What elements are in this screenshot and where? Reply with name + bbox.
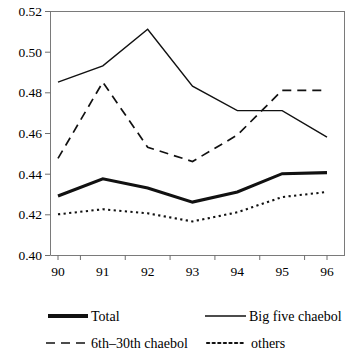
x-tick-labels: 90 91 92 93 94 95 96 bbox=[51, 264, 334, 279]
legend-label-total: Total bbox=[91, 309, 120, 324]
series-line-big-five-chaebol bbox=[58, 29, 327, 137]
series-line-others bbox=[58, 192, 327, 221]
chart-legend: Total Big five chaebol 6th–30th chaebol … bbox=[46, 309, 342, 351]
line-chart-figure: 0.52 0.50 0.48 0.46 0.44 0.42 0.40 90 91… bbox=[0, 0, 349, 357]
y-tick-marks bbox=[45, 12, 51, 256]
y-tick-label: 0.48 bbox=[18, 85, 42, 100]
x-tick-label: 90 bbox=[51, 264, 65, 279]
legend-label-6th-30th-chaebol: 6th–30th chaebol bbox=[91, 336, 188, 351]
y-tick-label: 0.46 bbox=[18, 126, 42, 141]
y-tick-label: 0.42 bbox=[18, 207, 42, 222]
y-tick-label: 0.50 bbox=[18, 45, 42, 60]
x-tick-label: 91 bbox=[96, 264, 110, 279]
chart-canvas: 0.52 0.50 0.48 0.46 0.44 0.42 0.40 90 91… bbox=[0, 0, 349, 357]
x-tick-label: 95 bbox=[275, 264, 289, 279]
x-tick-label: 92 bbox=[141, 264, 155, 279]
x-tick-label: 93 bbox=[186, 264, 200, 279]
y-tick-label: 0.40 bbox=[18, 248, 42, 263]
chart-axes bbox=[51, 11, 346, 256]
y-tick-labels: 0.52 0.50 0.48 0.46 0.44 0.42 0.40 bbox=[18, 4, 42, 263]
x-tick-label: 96 bbox=[320, 264, 334, 279]
y-tick-label: 0.44 bbox=[18, 167, 42, 182]
y-tick-label: 0.52 bbox=[18, 4, 42, 19]
legend-label-others: others bbox=[251, 336, 285, 351]
series-line-total bbox=[58, 173, 327, 202]
chart-series-group bbox=[58, 29, 327, 221]
legend-label-big-five-chaebol: Big five chaebol bbox=[249, 309, 342, 324]
x-tick-label: 94 bbox=[231, 264, 245, 279]
series-line-6th-30th-chaebol bbox=[58, 82, 327, 161]
